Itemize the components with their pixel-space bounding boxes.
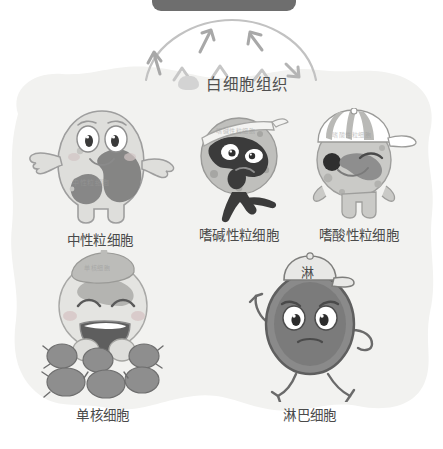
neutrophil-illustration: 中性粒细胞 [20,105,180,225]
label-monocyte: 单核细胞 [38,404,168,424]
lymphocyte-cap-text: 淋 [301,262,314,281]
eosinophil-illustration: 嗜酸性粒细胞 [298,108,420,225]
basophil-headband-watermark: 嗜碱性粒细胞 [216,126,255,135]
neutrophil-body-watermark: 中性粒细胞 [72,177,110,187]
monocyte-beret-watermark: 单核细胞 [84,263,110,272]
panel-title: 白细胞组织 [178,72,289,94]
label-eosinophil: 嗜酸性粒细胞 [298,224,420,244]
cell-figure-eosinophil: 嗜酸性粒细胞 嗜酸性粒细胞 [298,108,420,244]
cell-figure-monocyte: 单核细胞 单核细胞 [38,250,168,424]
blob-icon [178,76,199,90]
monocyte-illustration: 单核细胞 [38,250,168,402]
cell-figure-lymphocyte: 淋 淋巴细胞 [240,250,380,424]
label-basophil: 嗜碱性粒细胞 [180,224,298,244]
lymphocyte-illustration: 淋 [240,250,380,402]
cell-figure-basophil: 嗜碱性粒细胞 嗜碱性粒细胞 [180,108,298,244]
cell-figure-neutrophil: 中性粒细胞 中性粒细胞 [20,105,180,249]
label-lymphocyte: 淋巴细胞 [240,404,380,424]
label-neutrophil: 中性粒细胞 [20,229,180,249]
illustration-canvas: 白细胞组织 [0,0,443,449]
page-title: 白细胞组织 [206,72,289,94]
dark-rounded-bar [152,0,296,11]
basophil-illustration: 嗜碱性粒细胞 [180,108,298,225]
eosinophil-cap-watermark: 嗜酸性粒细胞 [332,130,371,139]
